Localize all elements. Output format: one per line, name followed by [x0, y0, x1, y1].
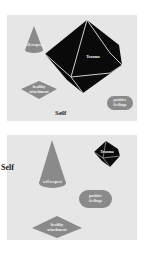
diamond-label: healthy attachment — [43, 223, 71, 232]
octahedron-label: Trauma — [80, 55, 106, 60]
diamond-label: healthy attachment — [26, 85, 52, 94]
cone-label: self respect — [39, 180, 66, 185]
octahedron-label: Trauma — [94, 150, 120, 155]
pill-label: positive feelings — [79, 194, 112, 203]
cone-shape — [25, 26, 43, 53]
self-label-bottom: Self — [1, 163, 14, 172]
self-label: Self — [55, 109, 66, 117]
pill-label: positive feelings — [107, 98, 133, 107]
cone-label: self respect — [21, 43, 47, 48]
panel-trauma-dominant: self respect Trauma healthy attachment p… — [7, 15, 137, 121]
panel-healthy-self: self respect Trauma positive feelings he… — [7, 135, 137, 240]
